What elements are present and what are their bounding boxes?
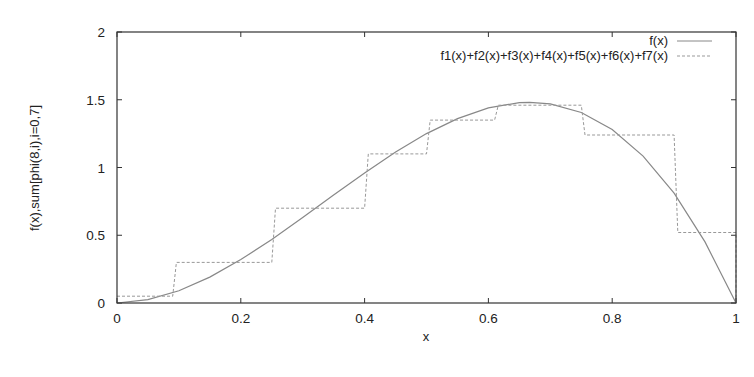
chart: 00.20.40.60.8100.511.52 x f(x),sum[phi(8…	[0, 0, 754, 377]
series-f-line	[117, 102, 736, 303]
series-sum-step-line	[117, 105, 736, 303]
x-tick-label: 1	[732, 311, 740, 326]
legend: f(x) f1(x)+f2(x)+f3(x)+f4(x)+f5(x)+f6(x)…	[440, 33, 712, 63]
axis-ticks	[117, 32, 736, 303]
y-tick-label: 1.5	[86, 93, 105, 108]
legend-label-f: f(x)	[649, 33, 668, 48]
plot-frame	[117, 32, 736, 303]
x-tick-label: 0.2	[231, 311, 250, 326]
x-tick-label: 0.6	[479, 311, 498, 326]
y-axis-title: f(x),sum[phi(8,i),i=0,7]	[27, 105, 42, 231]
tick-labels: 00.20.40.60.8100.511.52	[86, 25, 740, 326]
legend-label-sum: f1(x)+f2(x)+f3(x)+f4(x)+f5(x)+f6(x)+f7(x…	[440, 48, 668, 63]
plot-area	[117, 102, 736, 303]
y-tick-label: 0	[97, 296, 105, 311]
x-tick-label: 0	[113, 311, 121, 326]
y-tick-label: 0.5	[86, 228, 105, 243]
x-tick-label: 0.4	[355, 311, 374, 326]
x-axis-title: x	[423, 329, 430, 344]
y-tick-label: 1	[97, 161, 105, 176]
x-tick-label: 0.8	[603, 311, 622, 326]
y-tick-label: 2	[97, 25, 105, 40]
